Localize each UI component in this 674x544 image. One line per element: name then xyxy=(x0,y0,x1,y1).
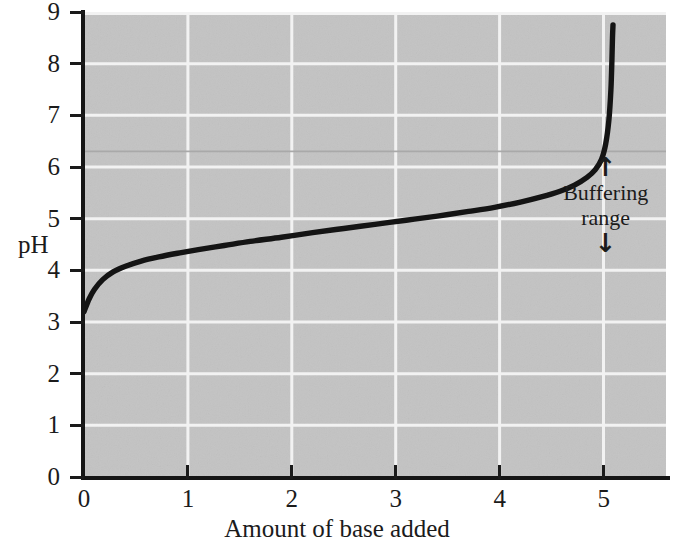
x-axis-tick xyxy=(394,465,397,479)
y-axis-tick xyxy=(70,166,84,169)
y-axis-tick-label: 8 xyxy=(30,51,60,76)
y-axis-tick-label: 7 xyxy=(30,102,60,127)
y-axis-tick-label: 6 xyxy=(30,154,60,179)
x-axis-tick-label: 4 xyxy=(480,486,520,511)
x-axis-tick-label: 3 xyxy=(376,486,416,511)
y-axis-tick-label: 9 xyxy=(30,0,60,24)
y-axis-tick-label: 4 xyxy=(30,257,60,282)
y-axis-tick-label: 3 xyxy=(30,309,60,334)
y-axis-title: pH xyxy=(18,232,49,257)
y-axis-tick xyxy=(70,114,84,117)
y-axis-tick xyxy=(70,424,84,427)
x-axis-line xyxy=(81,476,670,480)
y-axis-tick xyxy=(70,372,84,375)
y-axis-tick-label: 0 xyxy=(30,464,60,489)
y-axis-tick xyxy=(70,11,84,14)
y-axis-tick xyxy=(70,476,84,479)
x-axis-tick-label: 0 xyxy=(64,486,104,511)
x-axis-tick-label: 1 xyxy=(168,486,208,511)
x-axis-tick-label: 5 xyxy=(584,486,624,511)
y-axis-tick-label: 1 xyxy=(30,412,60,437)
buffering-arrow-down-icon: ↓ xyxy=(549,232,663,255)
y-axis-tick xyxy=(70,269,84,272)
x-axis-tick xyxy=(290,465,293,479)
x-axis-tick xyxy=(498,465,501,479)
y-axis-line xyxy=(81,10,85,480)
y-axis-tick xyxy=(70,62,84,65)
y-axis-tick-label: 5 xyxy=(30,206,60,231)
y-axis-tick-label: 2 xyxy=(30,361,60,386)
buffering-label-line1: Buffering xyxy=(549,180,663,205)
x-axis-tick xyxy=(602,465,605,479)
buffering-arrow-up-icon: ↑ xyxy=(549,156,663,178)
buffering-label-line2: range xyxy=(549,205,663,230)
y-axis-tick xyxy=(70,321,84,324)
titration-curve-figure: 0123456789 012345 pH Amount of base adde… xyxy=(0,0,674,544)
x-axis-tick-label: 2 xyxy=(272,486,312,511)
y-axis-tick xyxy=(70,217,84,220)
x-axis-tick xyxy=(186,465,189,479)
x-axis-title: Amount of base added xyxy=(0,516,674,541)
buffering-range-annotation: ↑ Buffering range ↓ xyxy=(549,156,663,256)
